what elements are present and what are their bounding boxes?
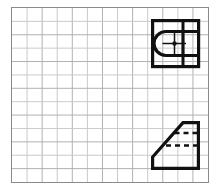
center-dot (172, 41, 176, 45)
drawing-top-view-d-slot[interactable] (153, 21, 199, 67)
worksheet-canvas: Orthographic sketch worksheet on graph p… (0, 0, 221, 193)
drawing-side-view-wedge[interactable] (153, 123, 199, 169)
technical-drawings-layer (0, 0, 221, 193)
